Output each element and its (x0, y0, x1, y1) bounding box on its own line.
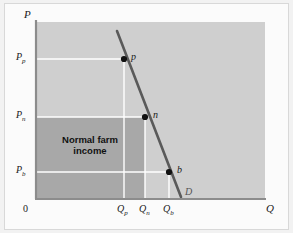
y-tick-sub-Pb: b (22, 170, 26, 178)
point-label-b: b (177, 164, 182, 175)
x-tick-label-Qb: Qb (163, 203, 174, 217)
origin-label: 0 (23, 203, 28, 214)
x-tick-sub-Qn: n (146, 209, 150, 217)
data-point-p (121, 56, 127, 62)
y-tick-label-Pn: Pn (16, 109, 26, 123)
normal-farm-income-label-line1: Normal farm (40, 134, 140, 145)
normal-farm-income-label-line2: income (40, 145, 140, 156)
y-tick-label-Pb: Pb (16, 164, 26, 178)
normal-farm-income-label: Normal farm income (40, 134, 140, 156)
point-label-p: p (131, 51, 136, 62)
data-point-b (166, 169, 172, 175)
x-tick-label-Qp: Qp (117, 203, 128, 217)
x-tick-sub-Qp: p (124, 209, 128, 217)
y-axis-title: P (24, 8, 31, 20)
x-tick-label-Qn: Qn (139, 203, 150, 217)
data-point-n (142, 114, 148, 120)
figure-container: P Q 0 Pp Pn Pb Qp Qn Qb p n b D Normal f… (0, 0, 293, 233)
point-label-n: n (153, 109, 158, 120)
x-axis-title: Q (266, 202, 274, 214)
x-tick-sub-Qb: b (170, 209, 174, 217)
chart-plot-area (0, 0, 293, 233)
y-tick-sub-Pp: p (22, 57, 26, 65)
y-tick-label-Pp: Pp (16, 51, 26, 65)
demand-curve-label: D (185, 186, 192, 197)
y-tick-sub-Pn: n (22, 115, 26, 123)
normal-farm-income-area (36, 117, 145, 199)
